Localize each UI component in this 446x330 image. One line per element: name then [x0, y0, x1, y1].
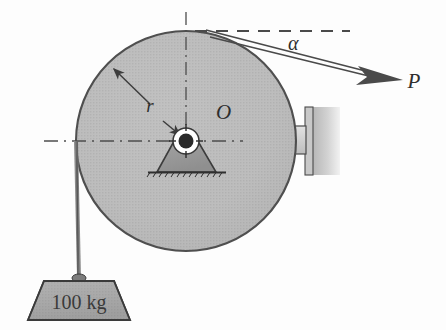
- mechanics-figure: α P r: [0, 0, 446, 330]
- weight-mass-label: 100 kg: [52, 291, 107, 314]
- center-o-label: O: [216, 100, 231, 124]
- figure-canvas: α P r: [0, 0, 446, 330]
- force-p-label: P: [407, 69, 421, 93]
- hanging-weight: 100 kg: [28, 281, 130, 320]
- wall-block: [312, 107, 340, 175]
- radius-label: r: [146, 95, 154, 116]
- angle-alpha-label: α: [288, 32, 299, 54]
